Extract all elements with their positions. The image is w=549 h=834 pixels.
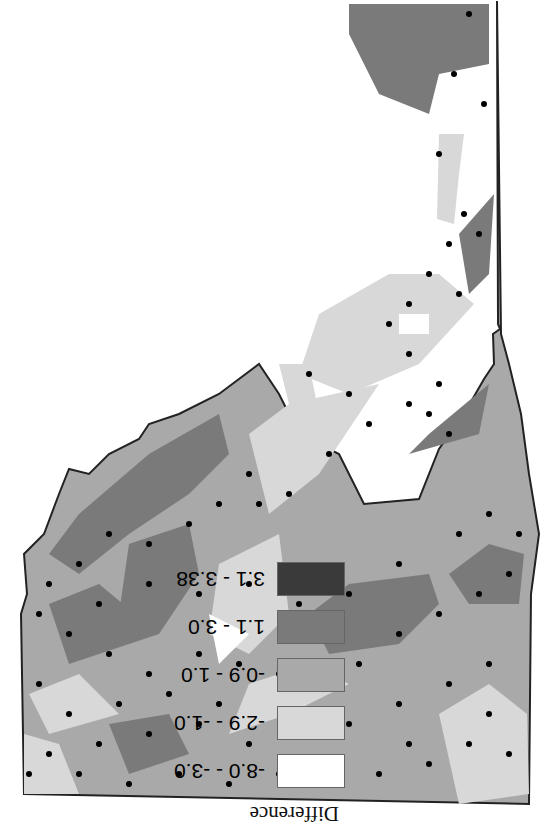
legend-swatch xyxy=(277,754,345,788)
legend-label: -0.9 - 1.0 xyxy=(181,663,265,687)
legend: Difference -8.0 - -3.0 -2.9 - -1.0 -0.9 … xyxy=(95,540,345,830)
legend-swatch xyxy=(277,706,345,740)
legend-title: Difference xyxy=(95,801,339,826)
legend-label: 1.1 - 3.0 xyxy=(188,615,265,639)
legend-label: 3.1 - 3.38 xyxy=(176,567,265,591)
legend-item: -2.9 - -1.0 xyxy=(95,699,345,747)
legend-swatch xyxy=(277,562,345,596)
legend-label: -2.9 - -1.0 xyxy=(174,711,265,735)
legend-label: -8.0 - -3.0 xyxy=(174,759,265,783)
legend-item: 1.1 - 3.0 xyxy=(95,603,345,651)
legend-item: -0.9 - 1.0 xyxy=(95,651,345,699)
legend-item: -8.0 - -3.0 xyxy=(95,747,345,795)
legend-swatch xyxy=(277,610,345,644)
legend-swatch xyxy=(277,658,345,692)
legend-item: 3.1 - 3.38 xyxy=(95,555,345,603)
